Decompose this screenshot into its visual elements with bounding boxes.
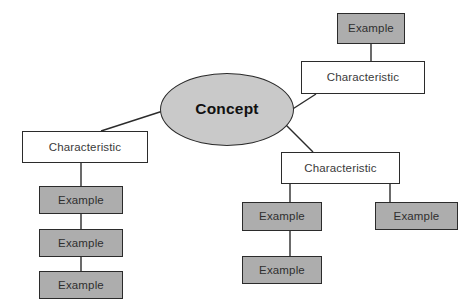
node-example-top-right[interactable]: Example (337, 13, 405, 44)
node-example-right-a-label: Example (259, 210, 305, 222)
concept-map-canvas: Concept Example Characteristic Character… (0, 0, 466, 308)
node-characteristic-right-label: Characteristic (304, 162, 376, 174)
node-characteristic-left[interactable]: Characteristic (22, 131, 148, 163)
node-example-left-3-label: Example (58, 279, 104, 291)
edge-concept-to-characteristic-left (101, 110, 166, 131)
node-characteristic-left-label: Characteristic (49, 141, 121, 153)
edge-concept-to-characteristic-right (286, 125, 313, 152)
node-characteristic-right[interactable]: Characteristic (281, 152, 400, 184)
node-concept[interactable]: Concept (160, 73, 294, 146)
node-characteristic-top-right[interactable]: Characteristic (301, 61, 425, 94)
node-example-top-right-label: Example (348, 22, 394, 34)
node-example-left-2-label: Example (58, 237, 104, 249)
node-example-right-c[interactable]: Example (242, 256, 322, 284)
node-example-right-b[interactable]: Example (375, 202, 458, 230)
node-example-right-a[interactable]: Example (242, 202, 322, 231)
node-example-left-2[interactable]: Example (39, 229, 123, 257)
node-concept-label: Concept (195, 101, 258, 117)
node-example-right-b-label: Example (394, 210, 440, 222)
node-example-left-1-label: Example (58, 194, 104, 206)
node-example-left-3[interactable]: Example (39, 271, 123, 299)
node-example-right-c-label: Example (259, 264, 305, 276)
node-characteristic-top-right-label: Characteristic (327, 71, 399, 83)
node-example-left-1[interactable]: Example (39, 186, 123, 214)
